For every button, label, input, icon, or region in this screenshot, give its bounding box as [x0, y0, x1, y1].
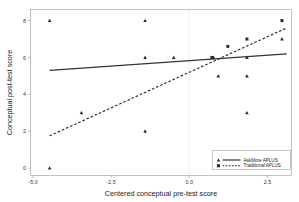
x-axis-ticks [33, 176, 267, 179]
data-point [143, 56, 147, 59]
chart-legend: AskMore APLUS Traditional APLUS [213, 151, 291, 170]
data-point [48, 19, 52, 22]
y-axis-ticks [28, 21, 31, 169]
x-tick-label-1: -2.5 [107, 179, 116, 185]
y-tick-label-1: 2 [23, 128, 26, 134]
series-1 [50, 19, 287, 136]
y-tick-label-4: 8 [23, 18, 26, 24]
data-point [48, 166, 52, 169]
data-point [245, 74, 249, 77]
scatter-plot: -5.0 -2.5 0.0 2.5 0 2 4 6 8 Centered con… [0, 0, 299, 202]
y-tick-label-3: 6 [23, 55, 26, 61]
data-point [143, 19, 147, 22]
x-tick-label-0: -5.0 [28, 179, 37, 185]
x-tick-label-2: 0.0 [186, 179, 194, 185]
fit-line-dashed [50, 28, 287, 136]
data-point [172, 56, 176, 59]
chart-figure: -5.0 -2.5 0.0 2.5 0 2 4 6 8 Centered con… [0, 0, 299, 202]
series-0 [48, 19, 287, 170]
data-point [210, 56, 213, 59]
data-point [245, 111, 249, 114]
legend-label-1: Traditional APLUS [244, 163, 281, 168]
legend-square-icon [217, 164, 220, 167]
data-point [245, 38, 248, 41]
legend-label-0: AskMore APLUS [244, 158, 278, 163]
data-point [280, 37, 284, 40]
data-point [216, 74, 220, 77]
x-axis-title: Centered conceptual pre-test score [105, 189, 217, 198]
data-point [143, 129, 147, 132]
data-point [280, 19, 283, 22]
fit-line-solid [50, 54, 287, 71]
y-tick-label-2: 4 [23, 91, 26, 97]
y-tick-label-0: 0 [23, 165, 26, 171]
series-layer [48, 19, 287, 170]
y-axis-title: Conceptual post-test score [5, 50, 14, 136]
data-point [80, 111, 84, 114]
data-point [226, 45, 229, 48]
x-tick-label-3: 2.5 [264, 179, 272, 185]
